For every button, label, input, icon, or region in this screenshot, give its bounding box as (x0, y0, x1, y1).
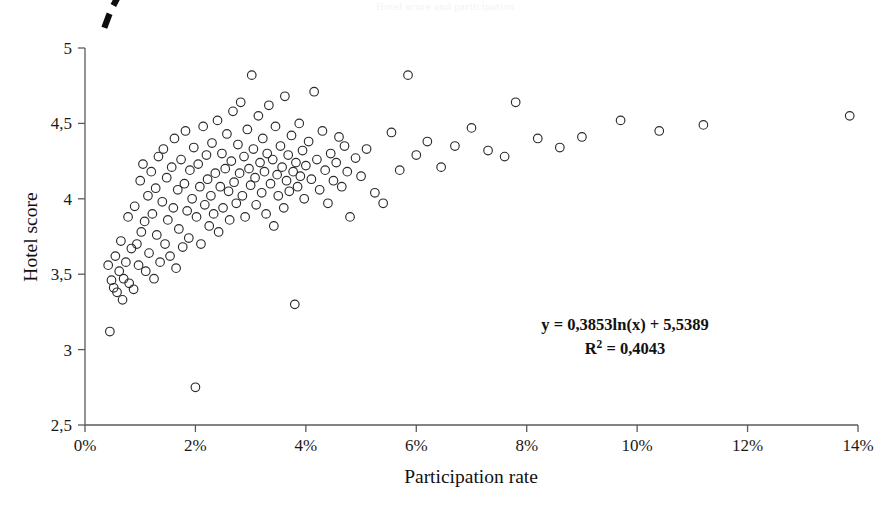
scatter-point (285, 187, 294, 196)
scatter-point (207, 191, 216, 200)
scatter-chart-figure: Hotel score and participation 2,533,544,… (0, 0, 891, 507)
scatter-point (224, 187, 233, 196)
trendline-equation-label: y = 0,3853ln(x) + 5,5389 (541, 315, 708, 334)
scatter-point (291, 300, 300, 309)
scatter-point (282, 176, 291, 185)
scatter-point (223, 130, 232, 139)
x-tick-label: 4% (295, 436, 318, 455)
scatter-point (357, 172, 366, 181)
scatter-point (136, 176, 145, 185)
scatter-point (150, 274, 159, 283)
scatter-point (279, 204, 288, 213)
scatter-point (249, 145, 258, 154)
scatter-point (271, 122, 280, 131)
scatter-point (225, 216, 234, 225)
scatter-point (251, 173, 260, 182)
scatter-point (437, 163, 446, 172)
scatter-point (230, 178, 239, 187)
scatter-point (241, 213, 250, 222)
scatter-point (156, 258, 165, 267)
scatter-point (186, 166, 195, 175)
scatter-point (139, 160, 148, 169)
scatter-point (169, 204, 178, 213)
scatter-point (192, 213, 201, 222)
y-tick-label: 2,5 (51, 416, 72, 435)
scatter-point (318, 127, 327, 136)
scatter-points-layer (104, 71, 854, 392)
scatter-point (158, 198, 167, 207)
scatter-point (243, 125, 252, 134)
scatter-point (329, 176, 338, 185)
scatter-point (122, 258, 131, 267)
scatter-point (351, 154, 360, 163)
scatter-point (199, 122, 208, 131)
scatter-point (227, 157, 236, 166)
y-tick-label: 5 (64, 39, 73, 58)
scatter-point (240, 152, 249, 161)
scatter-point (245, 164, 254, 173)
y-axis-title: Hotel score (20, 192, 41, 281)
x-tick-label: 6% (405, 436, 428, 455)
scatter-point (119, 274, 128, 283)
scatter-point (167, 163, 176, 172)
scatter-point (379, 199, 388, 208)
scatter-point (205, 222, 214, 231)
scatter-point (118, 296, 127, 305)
scatter-point (208, 139, 217, 148)
scatter-point (296, 172, 305, 181)
scatter-point (106, 327, 115, 336)
x-tick-label: 12% (732, 436, 763, 455)
scatter-point (304, 137, 313, 146)
scatter-point (175, 225, 184, 234)
scatter-point (276, 142, 285, 151)
scatter-point (164, 216, 173, 225)
scatter-point (203, 175, 212, 184)
scatter-point (404, 71, 413, 80)
scatter-point (266, 179, 275, 188)
scatter-point (337, 182, 346, 191)
y-tick-label: 4,5 (51, 114, 72, 133)
scatter-point (284, 151, 293, 160)
scatter-point (211, 169, 220, 178)
scatter-point (111, 252, 120, 261)
scatter-point (262, 210, 271, 219)
scatter-point (324, 199, 333, 208)
scatter-point (578, 133, 587, 142)
scatter-point (533, 134, 542, 143)
scatter-point (293, 182, 302, 191)
scatter-point (197, 240, 206, 249)
scatter-point (238, 191, 247, 200)
scatter-point (278, 163, 287, 172)
scatter-point (247, 71, 256, 80)
scatter-point (154, 152, 163, 161)
scatter-point (300, 195, 309, 204)
scatter-point (313, 155, 322, 164)
scatter-point (147, 167, 156, 176)
scatter-point (511, 98, 520, 107)
scatter-point (191, 383, 200, 392)
x-tick-label: 8% (515, 436, 538, 455)
scatter-point (273, 170, 282, 179)
r-squared-label: R2 = 0,4043 (585, 338, 666, 358)
scatter-point (232, 199, 241, 208)
scatter-point (170, 134, 179, 143)
scatter-point (162, 173, 171, 182)
scatter-point (556, 143, 565, 152)
scatter-point (180, 179, 189, 188)
scatter-point (189, 143, 198, 152)
scatter-point (137, 228, 146, 237)
scatter-point (144, 191, 153, 200)
r-squared-value: = 0,4043 (602, 339, 665, 358)
x-axis-ticks: 0%2%4%6%8%10%12%14% (74, 425, 874, 455)
scatter-point (104, 261, 113, 270)
scatter-point (172, 264, 181, 273)
scatter-point (134, 261, 143, 270)
scatter-point (298, 146, 307, 155)
scatter-point (335, 133, 344, 142)
logarithmic-trendline (104, 0, 852, 28)
y-tick-label: 4 (64, 190, 73, 209)
scatter-point (346, 213, 355, 222)
scatter-point (141, 267, 150, 276)
scatter-point (209, 210, 218, 219)
scatter-point (302, 161, 311, 170)
